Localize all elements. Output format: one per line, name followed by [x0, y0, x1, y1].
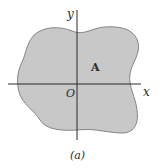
region-a-shape — [18, 27, 139, 133]
x-axis-label: x — [143, 86, 150, 98]
y-axis-label: y — [67, 8, 74, 20]
area-diagram: y x O A (a) — [0, 0, 160, 168]
figure-caption: (a) — [70, 150, 85, 161]
origin-label: O — [66, 88, 75, 99]
diagram-canvas — [0, 0, 160, 168]
area-label: A — [91, 62, 100, 73]
